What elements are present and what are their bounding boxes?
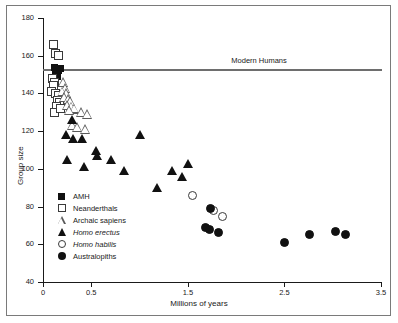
data-point	[80, 124, 90, 134]
legend-item-amh: AMH	[55, 190, 126, 202]
scatter-plot-figure: Group size Millions of years 40608010012…	[0, 0, 398, 323]
data-point	[206, 204, 215, 213]
data-point	[62, 155, 72, 164]
y-tick-label-160: 160	[10, 51, 34, 60]
legend-label: Homo erectus	[73, 228, 120, 237]
legend-key-shape	[58, 240, 66, 248]
legend-label: Archaic sapiens	[73, 216, 126, 225]
triangle-inner	[81, 126, 89, 133]
x-tick-label-0.5: 0.5	[76, 288, 106, 297]
y-tick-label-60: 60	[10, 239, 34, 248]
y-tick-100	[38, 169, 43, 170]
x-tick-label-1.5: 1.5	[173, 288, 203, 297]
y-tick-140	[38, 93, 43, 94]
legend-label: Australopiths	[73, 252, 116, 261]
legend-marker-open-triangle-icon	[55, 216, 68, 224]
data-point	[64, 105, 74, 115]
y-tick-80	[38, 207, 43, 208]
modern-humans-annotation: Modern Humans	[231, 56, 286, 65]
modern-humans-reference-line	[43, 69, 382, 71]
y-tick-120	[38, 131, 43, 132]
data-point	[92, 151, 102, 160]
y-tick-label-40: 40	[10, 277, 34, 286]
legend-item-neanderthals: Neanderthals	[55, 202, 126, 214]
y-tick-label-120: 120	[10, 126, 34, 135]
legend-key-shape	[58, 193, 65, 200]
legend-label: AMH	[73, 192, 90, 201]
legend-label: Neanderthals	[73, 204, 118, 213]
x-axis-line	[43, 282, 382, 283]
data-point	[331, 227, 340, 236]
x-axis-title: Millions of years	[0, 299, 398, 308]
legend-item-homo-erectus: Homo erectus	[55, 226, 126, 238]
legend-item-archaic-sapiens: Archaic sapiens	[55, 214, 126, 226]
triangle-inner	[83, 111, 91, 118]
x-tick-0.5	[91, 282, 92, 287]
legend-key-shape	[58, 204, 66, 212]
data-point	[152, 183, 162, 192]
legend-item-australopiths: Australopiths	[55, 250, 126, 262]
data-point	[67, 115, 77, 124]
legend-key-shape	[58, 216, 66, 224]
data-point	[177, 172, 187, 181]
data-point	[280, 238, 289, 247]
y-tick-label-180: 180	[10, 13, 34, 22]
legend-key-shape	[58, 252, 66, 260]
y-tick-label-100: 100	[10, 164, 34, 173]
data-point	[82, 109, 92, 119]
legend-marker-filled-square-icon	[55, 193, 68, 200]
data-point	[54, 51, 63, 60]
x-tick-label-2.5: 2.5	[269, 288, 299, 297]
data-point	[183, 159, 193, 168]
legend-label: Homo habilis	[73, 240, 116, 249]
data-point	[205, 225, 214, 234]
legend-marker-open-circle-icon	[55, 240, 68, 248]
y-axis-line	[43, 18, 44, 283]
x-tick-1.5	[188, 282, 189, 287]
data-point	[106, 155, 116, 164]
legend-marker-filled-triangle-icon	[55, 228, 68, 236]
legend-marker-open-square-icon	[55, 204, 68, 212]
data-point	[77, 134, 87, 143]
data-point	[49, 40, 58, 49]
data-point	[188, 191, 197, 200]
chart-legend: AMHNeanderthalsArchaic sapiensHomo erect…	[55, 190, 126, 262]
legend-key-shape	[58, 228, 66, 236]
y-tick-label-140: 140	[10, 88, 34, 97]
y-tick-60	[38, 244, 43, 245]
y-tick-label-80: 80	[10, 202, 34, 211]
y-tick-180	[38, 18, 43, 19]
x-tick-2.5	[284, 282, 285, 287]
data-point	[79, 162, 89, 171]
triangle-inner	[65, 107, 73, 114]
x-tick-label-0: 0	[28, 288, 58, 297]
y-tick-160	[38, 56, 43, 57]
x-tick-3.5	[381, 282, 382, 287]
data-point	[167, 166, 177, 175]
legend-marker-filled-circle-icon	[55, 252, 68, 260]
data-point	[119, 166, 129, 175]
x-tick-0	[43, 282, 44, 287]
legend-item-homo-habilis: Homo habilis	[55, 238, 126, 250]
data-point	[218, 212, 227, 221]
data-point	[135, 130, 145, 139]
x-tick-label-3.5: 3.5	[366, 288, 396, 297]
